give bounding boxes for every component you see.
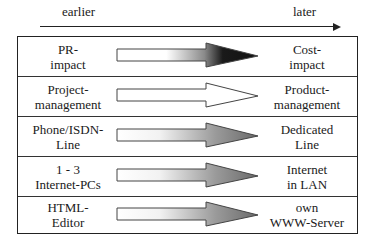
row-earlier-label: HTML- Editor — [18, 197, 118, 233]
comparison-table: PR- impact Cost- impact Project- managem… — [17, 36, 358, 234]
row-later-label: Product- management — [257, 77, 357, 116]
gray-gradient-arrow-icon — [116, 122, 260, 148]
row-later-label: own WWW-Server — [257, 197, 357, 233]
row-earlier-label: Project- management — [18, 77, 118, 116]
table-row: 1 - 3 Internet-PCs Internet in LAN — [18, 156, 357, 196]
hollow-arrow-icon — [116, 82, 260, 108]
table-row: HTML- Editor own WWW-Server — [18, 196, 357, 233]
row-earlier-label: Phone/ISDN- Line — [18, 117, 118, 156]
timeline-end-label: later — [293, 4, 316, 19]
dark-gradient-arrow-icon — [116, 42, 260, 68]
table-row: Phone/ISDN- Line Dedicated Line — [18, 116, 357, 156]
table-row: PR- impact Cost- impact — [18, 37, 357, 77]
timeline-start-label: earlier — [62, 4, 95, 19]
row-later-label: Dedicated Line — [257, 117, 357, 156]
row-earlier-label: PR- impact — [18, 37, 118, 77]
row-later-label: Internet in LAN — [257, 157, 357, 196]
gray-gradient-arrow-icon — [116, 162, 260, 188]
gray-gradient-arrow-icon — [116, 201, 260, 227]
row-later-label: Cost- impact — [257, 37, 357, 77]
table-row: Project- management Product- management — [18, 76, 357, 116]
timeline-axis — [40, 26, 334, 27]
timeline-arrowhead-icon — [333, 23, 341, 31]
row-earlier-label: 1 - 3 Internet-PCs — [18, 157, 118, 196]
